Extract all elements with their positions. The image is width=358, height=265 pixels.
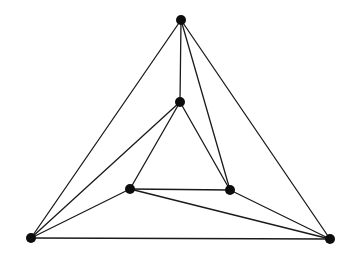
edge-inner-left-inner-right	[130, 189, 230, 190]
edge-top-bottom-right	[181, 20, 330, 239]
graph-diagram	[0, 0, 358, 265]
edge-top-inner-right	[181, 20, 230, 190]
vertex-middle	[175, 97, 185, 107]
edge-top-middle	[180, 20, 181, 102]
vertex-top	[176, 15, 186, 25]
vertex-inner-left	[125, 184, 135, 194]
edge-bottom-left-middle	[31, 102, 180, 238]
edge-middle-inner-right	[180, 102, 230, 190]
vertex-bottom-right	[325, 234, 335, 244]
edge-inner-left-bottom-right	[130, 189, 330, 239]
vertex-inner-right	[225, 185, 235, 195]
edge-top-bottom-left	[31, 20, 181, 238]
edge-bottom-left-inner-left	[31, 189, 130, 238]
vertex-bottom-left	[26, 233, 36, 243]
edge-bottom-left-bottom-right	[31, 238, 330, 239]
edge-middle-inner-left	[130, 102, 180, 189]
edge-inner-right-bottom-right	[230, 190, 330, 239]
edge-layer	[31, 20, 330, 239]
